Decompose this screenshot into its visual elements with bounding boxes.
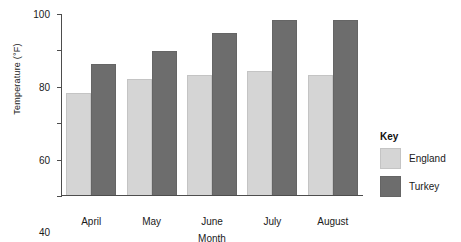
y-axis-line: [61, 14, 62, 196]
bar-england-june: [187, 75, 212, 195]
y-tick-mark: 20: [57, 160, 62, 161]
legend-swatch-turkey: [380, 176, 401, 197]
y-tick-mark: 100: [57, 14, 62, 15]
legend-item-turkey: Turkey: [380, 176, 461, 197]
y-tick-mark: 0: [57, 196, 62, 197]
legend-label: Turkey: [409, 181, 439, 192]
bar-turkey-april: [91, 64, 116, 195]
y-tick-label: 60: [39, 154, 50, 165]
y-tick-mark: 80: [57, 50, 62, 51]
plot-area: 020406080100 AprilMayJuneJulyAugust Mont…: [61, 14, 363, 196]
legend: Key EnglandTurkey: [380, 131, 461, 204]
legend-rows: EnglandTurkey: [380, 148, 461, 197]
x-tick-label: August: [317, 216, 348, 227]
bar-england-august: [308, 75, 333, 195]
x-tick-label: May: [142, 216, 161, 227]
bar-group: [65, 64, 117, 195]
legend-label: England: [409, 153, 446, 164]
x-tick-label: July: [263, 216, 281, 227]
x-tick-label: April: [81, 216, 101, 227]
legend-item-england: England: [380, 148, 461, 169]
y-tick-mark: 60: [57, 87, 62, 88]
bar-england-july: [247, 71, 272, 195]
x-axis-line: [61, 195, 363, 196]
bar-turkey-may: [152, 51, 177, 195]
x-axis-title: Month: [61, 233, 363, 242]
legend-title: Key: [380, 131, 461, 142]
x-tick-label: June: [201, 216, 223, 227]
y-tick-mark: 40: [57, 123, 62, 124]
bar-group: [186, 33, 238, 195]
y-tick-label: 100: [33, 9, 50, 20]
bar-chart: Temperature (°F) 020406080100 AprilMayJu…: [0, 0, 461, 242]
bar-group: [307, 20, 359, 195]
y-axis-title: Temperature (°F): [12, 19, 22, 139]
y-tick-label: 80: [39, 81, 50, 92]
bar-group: [126, 51, 178, 195]
y-tick-label: 40: [39, 227, 50, 238]
bar-england-may: [127, 79, 152, 195]
bar-turkey-july: [272, 20, 297, 195]
bar-group: [246, 20, 298, 195]
bar-england-april: [66, 93, 91, 195]
legend-swatch-england: [380, 148, 401, 169]
bar-turkey-june: [212, 33, 237, 195]
bar-turkey-august: [333, 20, 358, 195]
